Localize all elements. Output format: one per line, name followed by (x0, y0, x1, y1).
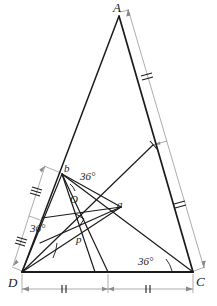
label-p: p (75, 233, 82, 245)
angle-label-b: 36° (79, 170, 96, 182)
tick-left-lower (15, 237, 27, 246)
arc-at-C (166, 259, 172, 271)
label-A: A (112, 0, 121, 15)
dim-arrow-bottom-mid-left (102, 287, 108, 291)
segment-D-to-ac-midpoint (22, 145, 153, 272)
segment-D-to-a (22, 207, 121, 272)
dimension-lines (12, 9, 206, 293)
label-b: b (64, 162, 70, 174)
label-O: O (70, 193, 78, 205)
tick-left-upper (30, 187, 42, 196)
dim-arrow-right-bottom (201, 261, 205, 269)
dim-arrow-bottom-mid-right (108, 287, 114, 291)
tick-right-upper (141, 73, 153, 80)
dim-arrow-bottom-right (186, 287, 193, 292)
dim-arrow-bottom-left (22, 287, 29, 292)
arc-at-b (70, 184, 75, 191)
vertex-labels: A D C b a O p (7, 0, 205, 290)
angle-label-D: 36° (29, 222, 46, 234)
dim-line-right (128, 9, 204, 268)
angle-labels: 36° 36° 36° (29, 170, 154, 267)
geometry-figure: A D C b a O p 36° 36° 36° (0, 0, 217, 306)
tick-right-lower (174, 201, 186, 208)
angle-label-C: 36° (137, 255, 154, 267)
dim-ext-top-left (44, 166, 61, 173)
label-a: a (117, 198, 123, 210)
figure-canvas: A D C b a O p 36° 36° 36° (0, 0, 217, 306)
segment-b-through-p (62, 174, 95, 272)
auxiliary-lines (22, 145, 193, 272)
label-D: D (7, 275, 18, 290)
dim-ext-bottom-left (12, 267, 22, 271)
dim-ext-bottom-right (194, 267, 205, 271)
side-AC (119, 16, 193, 272)
label-C: C (196, 274, 205, 289)
